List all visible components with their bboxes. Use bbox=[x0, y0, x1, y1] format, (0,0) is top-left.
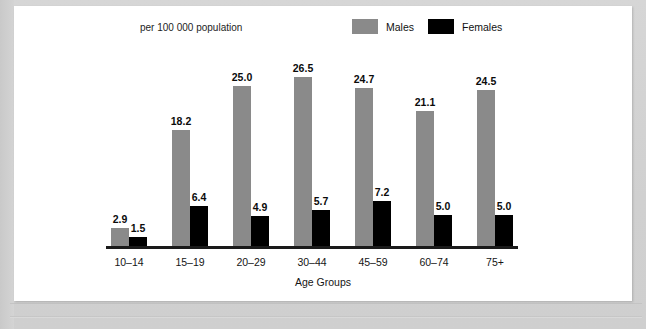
legend-swatch-females-icon bbox=[428, 19, 454, 34]
bar-females-20–29: 4.9 bbox=[251, 216, 269, 248]
chart-legend: Males Females bbox=[352, 19, 502, 34]
bar-value-label: 21.1 bbox=[415, 96, 435, 108]
x-tick-30–44: 30–44 bbox=[293, 256, 331, 268]
bar-value-label: 18.2 bbox=[171, 115, 191, 127]
x-axis-tick-labels: 10–1415–1920–2930–4445–5960–7475+ bbox=[110, 256, 514, 268]
chart-header: per 100 000 population Males Females bbox=[14, 6, 632, 46]
bar-value-label: 2.9 bbox=[113, 213, 128, 225]
bar-males-75+: 24.5 bbox=[477, 90, 495, 248]
chart-subtitle: per 100 000 population bbox=[140, 22, 242, 33]
bar-value-label: 5.7 bbox=[314, 195, 329, 207]
x-tick-60–74: 60–74 bbox=[415, 256, 453, 268]
bar-males-20–29: 25.0 bbox=[233, 86, 251, 247]
legend-swatch-males-icon bbox=[352, 19, 378, 34]
bar-males-30–44: 26.5 bbox=[294, 77, 312, 247]
bar-females-60–74: 5.0 bbox=[434, 215, 452, 247]
bar-males-60–74: 21.1 bbox=[416, 111, 434, 247]
bar-value-label: 6.4 bbox=[192, 191, 207, 203]
bar-group: 25.04.9 bbox=[232, 51, 270, 247]
page-divider-upper bbox=[10, 303, 642, 304]
bar-group: 26.55.7 bbox=[293, 51, 331, 247]
bar-value-label: 7.2 bbox=[375, 186, 390, 198]
bar-value-label: 5.0 bbox=[497, 200, 512, 212]
bar-value-label: 26.5 bbox=[293, 62, 313, 74]
chart-panel: per 100 000 population Males Females 2.9… bbox=[14, 6, 632, 301]
plot-area: 2.91.518.26.425.04.926.55.724.77.221.15.… bbox=[14, 46, 632, 251]
bar-females-15–19: 6.4 bbox=[190, 206, 208, 247]
bar-males-10–14: 2.9 bbox=[111, 228, 129, 247]
chart-page: per 100 000 population Males Females 2.9… bbox=[0, 0, 646, 329]
bar-value-label: 25.0 bbox=[232, 71, 252, 83]
legend-item-males: Males bbox=[352, 19, 414, 34]
bar-group: 24.77.2 bbox=[354, 51, 392, 247]
x-tick-20–29: 20–29 bbox=[232, 256, 270, 268]
bar-groups: 2.91.518.26.425.04.926.55.724.77.221.15.… bbox=[110, 51, 514, 247]
x-tick-15–19: 15–19 bbox=[171, 256, 209, 268]
bar-group: 24.55.0 bbox=[476, 51, 514, 247]
bar-females-75+: 5.0 bbox=[495, 215, 513, 247]
bar-group: 21.15.0 bbox=[415, 51, 453, 247]
bar-males-15–19: 18.2 bbox=[172, 130, 190, 247]
bar-value-label: 5.0 bbox=[436, 200, 451, 212]
x-tick-45–59: 45–59 bbox=[354, 256, 392, 268]
bar-group: 18.26.4 bbox=[171, 51, 209, 247]
page-divider-line bbox=[10, 316, 642, 318]
bar-males-45–59: 24.7 bbox=[355, 88, 373, 247]
bar-value-label: 24.5 bbox=[476, 75, 496, 87]
bar-females-30–44: 5.7 bbox=[312, 210, 330, 247]
bar-value-label: 4.9 bbox=[253, 201, 268, 213]
bar-group: 2.91.5 bbox=[110, 51, 148, 247]
legend-item-females: Females bbox=[428, 19, 502, 34]
bar-value-label: 1.5 bbox=[131, 222, 146, 234]
legend-label-males: Males bbox=[386, 21, 414, 33]
x-axis-title: Age Groups bbox=[14, 276, 632, 288]
bar-value-label: 24.7 bbox=[354, 73, 374, 85]
x-axis-line bbox=[106, 246, 518, 249]
x-tick-10–14: 10–14 bbox=[110, 256, 148, 268]
bar-females-45–59: 7.2 bbox=[373, 201, 391, 247]
x-tick-75+: 75+ bbox=[476, 256, 514, 268]
legend-label-females: Females bbox=[462, 21, 502, 33]
page-left-shading bbox=[0, 0, 14, 329]
